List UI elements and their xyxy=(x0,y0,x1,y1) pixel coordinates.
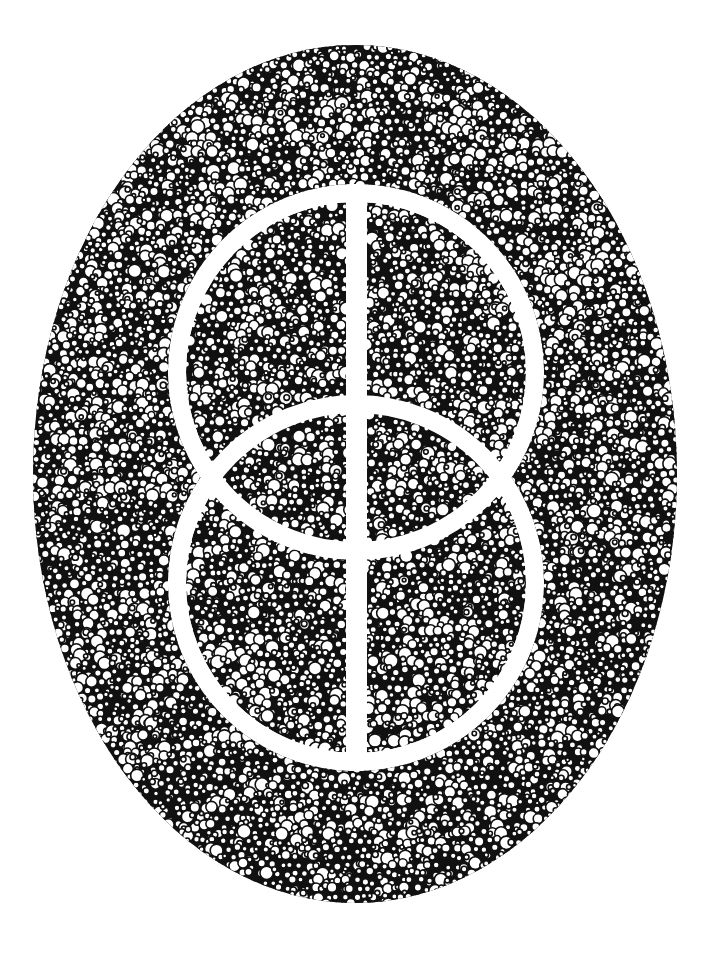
inner-bubble-field xyxy=(173,189,535,758)
bubble-ellipse-artwork xyxy=(0,0,719,958)
